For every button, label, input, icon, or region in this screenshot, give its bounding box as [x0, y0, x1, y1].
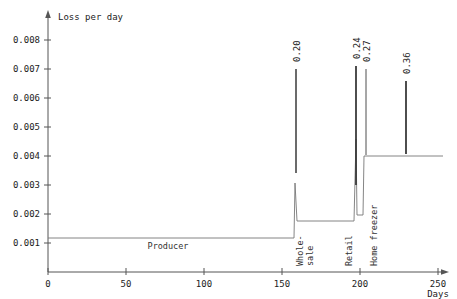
- y-tick-label-0.001: 0.001: [13, 238, 40, 248]
- y-tick-label-0.006: 0.006: [13, 93, 40, 103]
- stage-label-home-freezer: Home freezer: [369, 205, 379, 266]
- y-axis-title: Loss per day: [58, 12, 124, 22]
- stage-label-wholesale-line1: Whole-: [295, 235, 305, 266]
- chart-container: 0.008 0.007 0.006 0.005 0.004 0.003 0.00…: [0, 0, 457, 299]
- y-tick-label-0.007: 0.007: [13, 64, 40, 74]
- x-tick-label-0: 0: [45, 279, 50, 289]
- y-tick-label-0.002: 0.002: [13, 209, 40, 219]
- x-axis-title: Days: [427, 289, 449, 299]
- stage-label-producer: Producer: [148, 241, 189, 251]
- y-axis: [45, 10, 51, 272]
- x-tick-label-250: 250: [430, 279, 446, 289]
- error-bar-label-0.36: 0.36: [402, 52, 412, 74]
- error-bar-label-0.27: 0.27: [362, 40, 372, 62]
- x-axis-arrowhead: [441, 269, 449, 275]
- stage-label-wholesale-line2: sale: [305, 246, 315, 266]
- stage-label-retail: Retail: [344, 235, 354, 266]
- x-tick-label-200: 200: [352, 279, 368, 289]
- y-tick-label-0.005: 0.005: [13, 122, 40, 132]
- y-axis-arrowhead: [45, 10, 51, 18]
- y-tick-label-0.004: 0.004: [13, 151, 40, 161]
- x-axis: [48, 269, 449, 275]
- error-bar-label-0.24: 0.24: [352, 37, 362, 59]
- error-bar-label-0.20: 0.20: [292, 40, 302, 62]
- data-line-loss-per-day: [48, 139, 443, 238]
- x-tick-label-100: 100: [196, 279, 212, 289]
- x-tick-label-150: 150: [274, 279, 290, 289]
- x-tick-label-50: 50: [121, 279, 132, 289]
- y-tick-label-0.003: 0.003: [13, 180, 40, 190]
- chart-svg: 0.008 0.007 0.006 0.005 0.004 0.003 0.00…: [0, 0, 457, 299]
- y-tick-label-0.008: 0.008: [13, 35, 40, 45]
- error-bar-group: [296, 66, 406, 185]
